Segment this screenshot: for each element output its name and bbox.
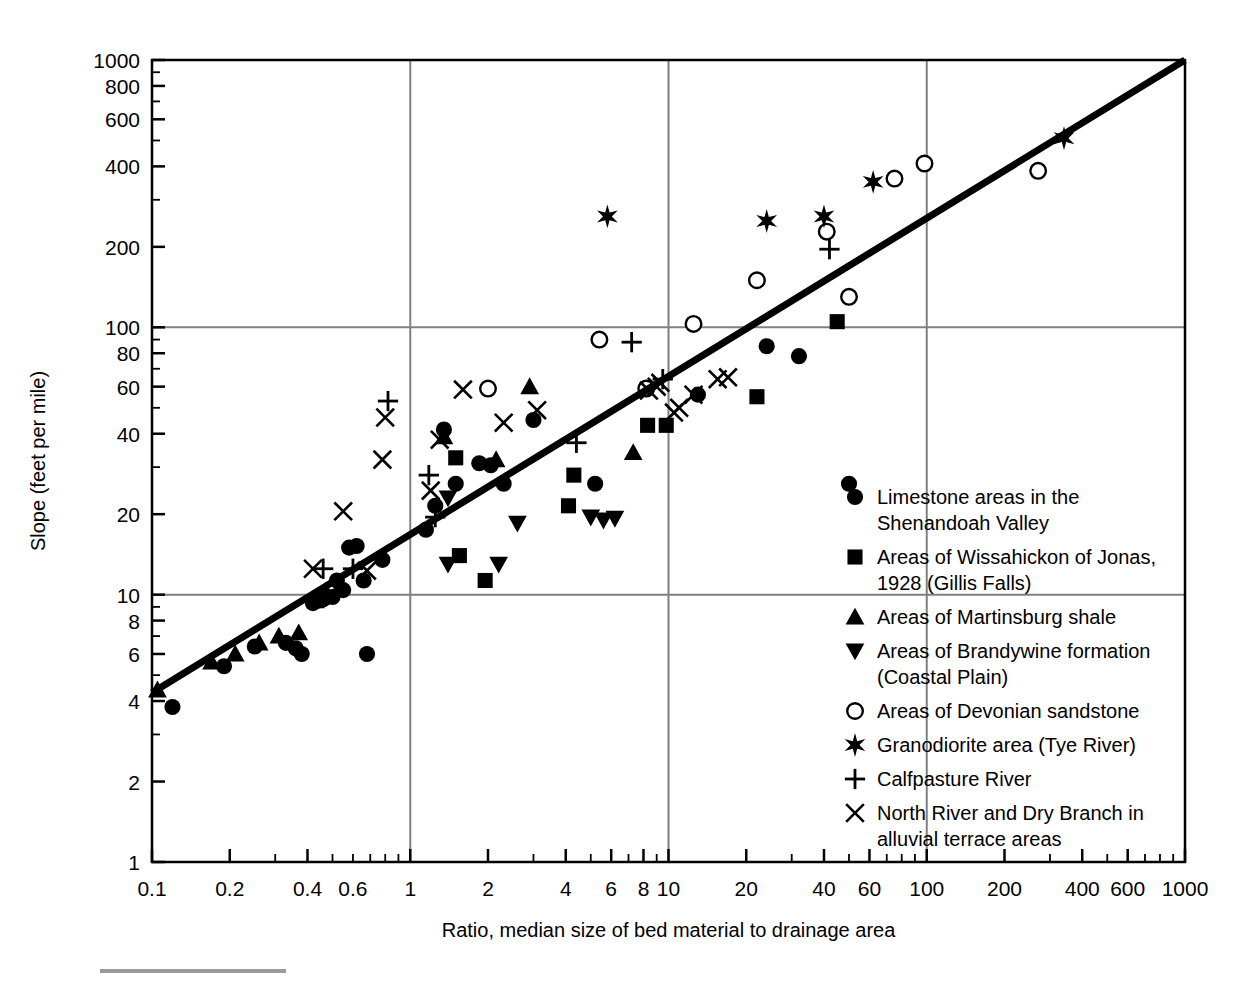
legend-label: Shenandoah Valley: [877, 512, 1049, 534]
data-point: [289, 623, 308, 640]
legend-item-6[interactable]: Calfpasture River: [845, 768, 1032, 790]
xtick-label-4: 4: [560, 877, 572, 900]
legend-label: alluvial terrace areas: [877, 828, 1062, 850]
xtick-label-1000: 1000: [1162, 877, 1209, 900]
data-point: [887, 171, 903, 187]
data-point: [478, 573, 493, 588]
legend-label: Areas of Brandywine formation: [877, 640, 1150, 662]
ytick-label-1000: 1000: [93, 49, 140, 72]
legend-label: Areas of Devonian sandstone: [877, 700, 1139, 722]
xtick-label-20: 20: [735, 877, 758, 900]
data-point: [592, 332, 608, 348]
data-point: [448, 450, 463, 465]
data-point: [819, 239, 839, 259]
legend-label: Areas of Martinsburg shale: [877, 606, 1116, 628]
legend-marker-star: [845, 733, 866, 757]
legend-marker-filled-triangle-up: [846, 608, 865, 625]
xtick-label-0.2: 0.2: [215, 877, 244, 900]
legend-item-3[interactable]: Areas of Brandywine formation(Coastal Pl…: [846, 640, 1151, 688]
data-point: [749, 389, 764, 404]
xtick-label-0.6: 0.6: [338, 877, 367, 900]
legend-label: 1928 (Gillis Falls): [877, 572, 1031, 594]
data-point: [863, 170, 884, 194]
data-point: [1030, 163, 1046, 179]
data-point: [349, 538, 365, 554]
ytick-label-200: 200: [105, 236, 140, 259]
legend-marker-filled-square: [847, 549, 862, 564]
legend-item-7[interactable]: North River and Dry Branch inalluvial te…: [846, 802, 1144, 850]
data-point: [454, 381, 472, 399]
data-point: [756, 209, 777, 233]
footer-rule: [100, 969, 286, 973]
legend-label: North River and Dry Branch in: [877, 802, 1144, 824]
xtick-label-100: 100: [909, 877, 944, 900]
data-point: [489, 557, 508, 574]
legend-label: Limestone areas in the: [877, 486, 1079, 508]
data-point: [791, 348, 807, 364]
data-point: [480, 381, 496, 397]
data-point: [376, 409, 394, 427]
data-point: [759, 338, 775, 354]
ytick-label-400: 400: [105, 155, 140, 178]
series-1: [448, 314, 845, 588]
xtick-label-0.1: 0.1: [137, 877, 166, 900]
legend-marker-open-circle: [847, 703, 863, 719]
data-point: [508, 516, 527, 533]
ytick-label-6: 6: [128, 643, 140, 666]
xtick-label-8: 8: [638, 877, 650, 900]
data-point: [566, 468, 581, 483]
series-4: [480, 156, 1046, 397]
legend-item-4[interactable]: Areas of Devonian sandstone: [847, 700, 1139, 722]
data-point: [374, 451, 392, 469]
data-point: [686, 316, 702, 332]
legend-label: (Coastal Plain): [877, 666, 1008, 688]
data-point: [819, 224, 835, 240]
data-point: [439, 557, 458, 574]
xtick-label-2: 2: [482, 877, 494, 900]
legend-item-0[interactable]: Limestone areas in theShenandoah Valley: [847, 486, 1079, 534]
data-point: [587, 476, 603, 492]
legend-label: Areas of Wissahickon of Jonas,: [877, 546, 1156, 568]
y-axis-title: Slope (feet per mile): [27, 371, 49, 551]
ytick-label-40: 40: [117, 423, 140, 446]
data-point: [597, 204, 618, 228]
ytick-label-800: 800: [105, 75, 140, 98]
legend-item-2[interactable]: Areas of Martinsburg shale: [846, 606, 1116, 628]
data-point: [495, 414, 513, 432]
chart-figure: 0.10.20.40.61246810204060100200400600100…: [0, 0, 1254, 984]
series-7: [304, 369, 737, 580]
xtick-label-40: 40: [812, 877, 835, 900]
data-point: [841, 289, 857, 305]
ytick-label-80: 80: [117, 342, 140, 365]
ytick-label-1: 1: [128, 851, 140, 874]
data-point: [830, 314, 845, 329]
xtick-label-6: 6: [605, 877, 617, 900]
ytick-label-4: 4: [128, 690, 140, 713]
ytick-label-600: 600: [105, 108, 140, 131]
legend-marker-plus: [845, 769, 865, 789]
data-point: [359, 646, 375, 662]
legend-item-5[interactable]: Granodiorite area (Tye River): [845, 733, 1136, 757]
data-point: [520, 377, 539, 394]
data-point: [164, 699, 180, 715]
data-point: [624, 443, 643, 460]
data-point: [294, 646, 310, 662]
data-point: [313, 559, 333, 579]
data-point: [640, 418, 655, 433]
xtick-label-60: 60: [858, 877, 881, 900]
legend-label: Calfpasture River: [877, 768, 1032, 790]
legend-label: Granodiorite area (Tye River): [877, 734, 1136, 756]
xtick-label-200: 200: [987, 877, 1022, 900]
ytick-label-60: 60: [117, 376, 140, 399]
ytick-label-10: 10: [117, 584, 140, 607]
xtick-label-600: 600: [1110, 877, 1145, 900]
legend-marker-cross: [846, 804, 864, 822]
data-point: [719, 369, 737, 387]
legend-item-1[interactable]: Areas of Wissahickon of Jonas,1928 (Gill…: [847, 546, 1156, 594]
data-point: [334, 502, 352, 520]
legend: Limestone areas in theShenandoah ValleyA…: [845, 486, 1156, 850]
data-point: [917, 156, 933, 172]
ytick-label-20: 20: [117, 503, 140, 526]
data-point: [448, 476, 464, 492]
legend-marker-filled-circle: [847, 489, 863, 505]
